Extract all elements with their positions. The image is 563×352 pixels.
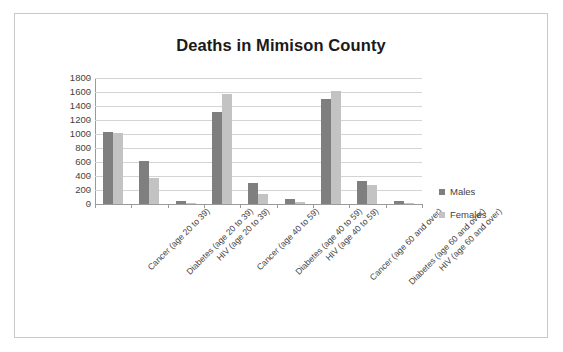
y-tick-label: 1200 xyxy=(45,115,91,125)
y-tick-mark xyxy=(88,162,91,163)
y-tick-mark xyxy=(88,78,91,79)
bar-females[interactable] xyxy=(258,194,268,205)
y-tick-mark xyxy=(88,92,91,93)
bar-males[interactable] xyxy=(248,183,258,204)
y-tick-label: 800 xyxy=(45,143,91,153)
bar-group xyxy=(204,78,240,204)
bar-group xyxy=(95,78,131,204)
chart-legend: MalesFemales xyxy=(439,186,539,232)
y-tick-label: 1800 xyxy=(45,73,91,83)
x-tick-label: Cancer (age 60 and over) xyxy=(368,206,444,282)
y-tick-mark xyxy=(88,148,91,149)
bar-females[interactable] xyxy=(222,94,232,204)
bar-group xyxy=(349,78,385,204)
bar-females[interactable] xyxy=(186,203,196,204)
bar-group xyxy=(168,78,204,204)
bar-females[interactable] xyxy=(331,91,341,204)
chart-container: Deaths in Mimison County 180016001400120… xyxy=(14,13,548,338)
y-tick-mark xyxy=(88,190,91,191)
legend-label: Females xyxy=(450,209,486,220)
bar-males[interactable] xyxy=(394,201,404,204)
bar-group xyxy=(277,78,313,204)
bar-group xyxy=(313,78,349,204)
bar-males[interactable] xyxy=(321,99,331,204)
y-tick-label: 1400 xyxy=(45,101,91,111)
y-tick-mark xyxy=(88,120,91,121)
bar-females[interactable] xyxy=(404,203,414,204)
legend-item-males[interactable]: Males xyxy=(439,186,539,197)
y-axis-tick-labels: 180016001400120010008006004002000 xyxy=(43,78,91,204)
y-tick-mark xyxy=(88,176,91,177)
bar-group xyxy=(240,78,276,204)
bar-females[interactable] xyxy=(295,202,305,204)
chart-title: Deaths in Mimison County xyxy=(15,36,547,55)
y-tick-label: 200 xyxy=(45,185,91,195)
y-tick-label: 0 xyxy=(45,199,91,209)
x-axis-tick-labels: Cancer (age 20 to 39)Diabetes (age 20 to… xyxy=(95,206,435,316)
y-tick-label: 1000 xyxy=(45,129,91,139)
bar-group xyxy=(386,78,422,204)
y-tick-mark xyxy=(88,134,91,135)
legend-label: Males xyxy=(450,186,475,197)
bar-group xyxy=(131,78,167,204)
plot-area xyxy=(95,78,422,204)
bar-females[interactable] xyxy=(113,133,123,204)
y-tick-label: 400 xyxy=(45,171,91,181)
y-tick-mark xyxy=(88,106,91,107)
legend-swatch-icon xyxy=(439,189,445,195)
y-tick-label: 600 xyxy=(45,157,91,167)
bar-males[interactable] xyxy=(176,201,186,204)
legend-swatch-icon xyxy=(439,212,445,218)
legend-item-females[interactable]: Females xyxy=(439,209,539,220)
bar-females[interactable] xyxy=(149,178,159,204)
bar-males[interactable] xyxy=(285,199,295,204)
bar-males[interactable] xyxy=(212,112,222,204)
bar-females[interactable] xyxy=(367,185,377,204)
y-tick-label: 1600 xyxy=(45,87,91,97)
bar-males[interactable] xyxy=(357,181,367,204)
bar-males[interactable] xyxy=(139,161,149,204)
y-tick-mark xyxy=(88,204,91,205)
bar-males[interactable] xyxy=(103,132,113,204)
